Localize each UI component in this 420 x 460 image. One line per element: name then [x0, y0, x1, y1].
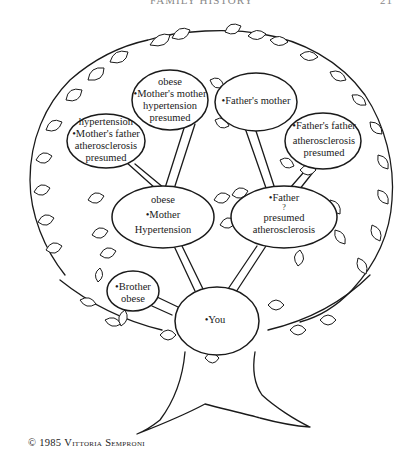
branch-you-father — [228, 246, 266, 292]
copyright-symbol: © — [28, 437, 36, 448]
label-father: •Father ? presumed atherosclerosis — [253, 192, 315, 236]
family-tree-illustration: FAMILY HISTORY 21 — [0, 0, 420, 460]
label-mothers-mother: obese •Mother's mother hypertension pres… — [134, 76, 207, 124]
label-fathers-father: •Father's father atherosclerosis presume… — [292, 120, 356, 159]
branch-father-fathers-mother — [245, 128, 275, 189]
artist-name: Vittoria Semproni — [64, 437, 145, 448]
label-mothers-father: hypertension •Mother's father atheroscle… — [72, 116, 140, 164]
branch-you-mother — [174, 246, 203, 291]
label-brother: •Brother obese — [115, 281, 151, 305]
limb-right — [268, 275, 370, 330]
copyright-year: 1985 — [39, 437, 61, 448]
branch-mother-mothers-father — [126, 162, 164, 188]
label-mother: obese •Mother Hypertension — [135, 194, 192, 236]
trunk — [137, 352, 310, 434]
tree-drawing — [0, 0, 420, 460]
branch-mother-mothers-mother — [165, 124, 195, 189]
copyright-credit: © 1985 Vittoria Semproni — [28, 437, 145, 448]
label-fathers-mother: •Father's mother — [222, 95, 291, 107]
label-you: •You — [205, 314, 226, 326]
